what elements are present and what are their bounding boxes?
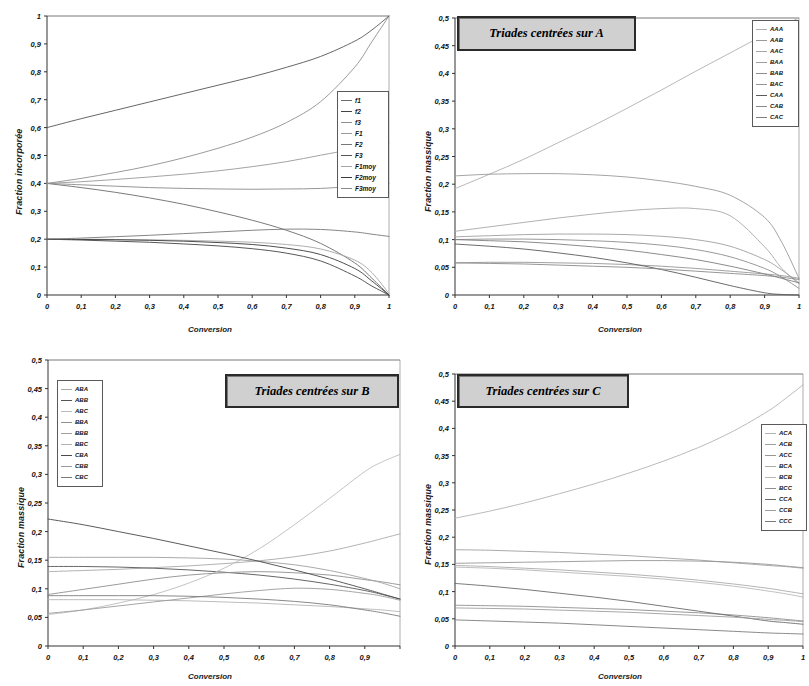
legend-item-ABA[interactable]: ABA (61, 384, 98, 395)
legend-item-CAC[interactable]: CAC (756, 112, 794, 123)
svg-text:0: 0 (453, 653, 458, 662)
legend-item-f1[interactable]: f1 (341, 95, 384, 106)
legend-item-BAA[interactable]: BAA (756, 57, 794, 68)
svg-text:0,7: 0,7 (281, 302, 292, 311)
legend-item-CBC[interactable]: CBC (61, 472, 98, 483)
legend-item-AAC[interactable]: AAC (756, 46, 794, 57)
legend-item-F3moy[interactable]: F3moy (341, 183, 384, 194)
legend-item-CAB[interactable]: CAB (756, 101, 794, 112)
legend-swatch-icon (341, 122, 352, 123)
legend-label: BBC (75, 439, 88, 450)
y-axis-label-panel-2: Fraction massique (423, 131, 433, 212)
svg-text:0,3: 0,3 (554, 653, 565, 662)
legend-panel-4[interactable]: ACAACBACCBCABCBBCCCCACCBCCC (761, 424, 807, 531)
svg-text:0,4: 0,4 (32, 413, 43, 422)
svg-text:0,7: 0,7 (31, 96, 42, 105)
legend-swatch-icon (756, 40, 767, 41)
svg-text:0,5: 0,5 (31, 152, 42, 161)
legend-item-CCB[interactable]: CCB (765, 505, 802, 516)
legend-swatch-icon (765, 466, 776, 467)
svg-text:0,2: 0,2 (32, 528, 43, 537)
legend-item-CBA[interactable]: CBA (61, 450, 98, 461)
x-axis-label-panel-2: Conversion (450, 325, 790, 334)
panel-title-box-3: Triades centrées sur B (225, 374, 399, 408)
legend-item-ABB[interactable]: ABB (61, 395, 98, 406)
legend-item-BAB[interactable]: BAB (756, 68, 794, 79)
legend-swatch-icon (61, 411, 72, 412)
svg-text:0,5: 0,5 (32, 356, 43, 365)
chart-panel-3: 00,050,10,150,20,250,30,350,40,450,500,1… (0, 343, 405, 686)
svg-text:0,3: 0,3 (31, 207, 42, 216)
legend-item-F2[interactable]: F2 (341, 139, 384, 150)
legend-label: ABC (75, 406, 88, 417)
legend-item-ACC[interactable]: ACC (765, 450, 802, 461)
series-line-ABA (48, 534, 400, 572)
svg-text:0,5: 0,5 (219, 653, 230, 662)
svg-text:0,4: 0,4 (439, 69, 450, 78)
legend-swatch-icon (765, 488, 776, 489)
legend-item-CAA[interactable]: CAA (756, 90, 794, 101)
legend-item-BCB[interactable]: BCB (765, 472, 802, 483)
svg-text:0,35: 0,35 (434, 452, 449, 461)
legend-item-BCC[interactable]: BCC (765, 483, 802, 494)
legend-item-F3[interactable]: F3 (341, 150, 384, 161)
legend-item-F1moy[interactable]: F1moy (341, 161, 384, 172)
legend-item-CCA[interactable]: CCA (765, 494, 802, 505)
legend-label: f2 (355, 106, 361, 117)
legend-label: BBA (75, 417, 88, 428)
legend-label: ABA (75, 384, 88, 395)
legend-item-ABC[interactable]: ABC (61, 406, 98, 417)
legend-item-BBB[interactable]: BBB (61, 428, 98, 439)
svg-text:0,5: 0,5 (439, 14, 450, 23)
legend-item-F1[interactable]: F1 (341, 128, 384, 139)
legend-swatch-icon (61, 422, 72, 423)
legend-item-AAB[interactable]: AAB (756, 35, 794, 46)
series-line-ACB (455, 550, 803, 569)
chart-panel-1: 00,10,20,30,40,50,60,70,80,9100,10,20,30… (0, 0, 405, 343)
legend-swatch-icon (765, 444, 776, 445)
svg-text:0,2: 0,2 (439, 533, 450, 542)
svg-text:0,25: 0,25 (434, 506, 449, 515)
svg-text:0,2: 0,2 (439, 180, 450, 189)
legend-label: AAB (770, 35, 783, 46)
legend-panel-3[interactable]: ABAABBABCBBABBBBBCCBACBBCBC (57, 380, 103, 487)
svg-text:0,6: 0,6 (247, 302, 258, 311)
legend-item-ACA[interactable]: ACA (765, 428, 802, 439)
svg-text:0,9: 0,9 (350, 302, 361, 311)
svg-text:0,4: 0,4 (31, 179, 42, 188)
legend-swatch-icon (756, 51, 767, 52)
legend-item-F2moy[interactable]: F2moy (341, 172, 384, 183)
svg-text:0,45: 0,45 (434, 42, 449, 51)
legend-panel-1[interactable]: f1f2f3F1F2F3F1moyF2moyF3moy (337, 91, 389, 198)
series-line-CBC (48, 596, 400, 617)
legend-item-ACB[interactable]: ACB (765, 439, 802, 450)
series-line-BCA (455, 565, 803, 593)
legend-label: CBC (75, 472, 88, 483)
legend-item-f3[interactable]: f3 (341, 117, 384, 128)
legend-item-CCC[interactable]: CCC (765, 516, 802, 527)
svg-text:0,8: 0,8 (31, 68, 42, 77)
legend-swatch-icon (341, 133, 352, 134)
legend-swatch-icon (61, 444, 72, 445)
legend-item-f2[interactable]: f2 (341, 106, 384, 117)
legend-panel-2[interactable]: AAAAABAACBAABABBACCAACABCAC (752, 20, 799, 127)
legend-swatch-icon (61, 455, 72, 456)
svg-text:0,1: 0,1 (484, 302, 494, 311)
svg-text:0,1: 0,1 (78, 653, 88, 662)
legend-item-BAC[interactable]: BAC (756, 79, 794, 90)
legend-item-BBA[interactable]: BBA (61, 417, 98, 428)
legend-label: CBB (75, 461, 88, 472)
legend-item-CBB[interactable]: CBB (61, 461, 98, 472)
legend-label: AAC (770, 46, 783, 57)
svg-text:0,9: 0,9 (360, 653, 371, 662)
legend-label: CBA (75, 450, 88, 461)
svg-text:1: 1 (37, 12, 41, 21)
svg-text:0,8: 0,8 (725, 302, 736, 311)
svg-text:0,1: 0,1 (439, 588, 449, 597)
legend-item-BCA[interactable]: BCA (765, 461, 802, 472)
legend-swatch-icon (61, 477, 72, 478)
legend-item-BBC[interactable]: BBC (61, 439, 98, 450)
svg-text:1: 1 (387, 302, 391, 311)
legend-item-AAA[interactable]: AAA (756, 24, 794, 35)
legend-swatch-icon (756, 106, 767, 107)
